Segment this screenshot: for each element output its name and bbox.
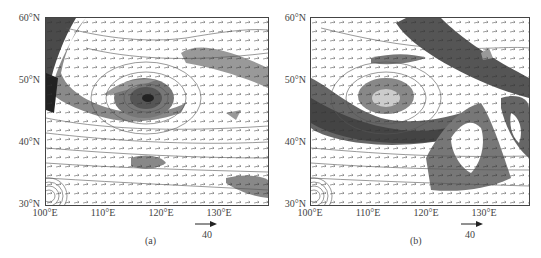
wind-field-map-a [46, 18, 268, 205]
reference-vector-arrow-b [460, 220, 484, 228]
lat-label-50n: 50°N [4, 74, 40, 85]
map-plot-a [45, 17, 269, 206]
wind-field-map-b [311, 18, 529, 205]
lon-label-120e: 120°E [141, 207, 181, 218]
lat-label-40n: 40°N [4, 136, 40, 147]
reference-vector-label-b: 40 [465, 229, 475, 240]
lon-label-130e: 130°E [199, 207, 239, 218]
reference-vector-arrow-a [194, 220, 218, 228]
caption-b: (b) [410, 235, 422, 246]
reference-vector-label-a: 40 [202, 229, 212, 240]
lon-label-100e: 100°E [25, 207, 65, 218]
lat-label-50n: 50°N [270, 74, 306, 85]
lat-label-60n: 60°N [270, 12, 306, 23]
caption-a: (a) [145, 235, 156, 246]
lon-label-120e: 120°E [406, 207, 446, 218]
lon-label-130e: 130°E [464, 207, 504, 218]
lon-label-100e: 100°E [290, 207, 330, 218]
lon-label-110e: 110°E [348, 207, 388, 218]
map-plot-b [310, 17, 530, 206]
lon-label-110e: 110°E [83, 207, 123, 218]
lat-label-40n: 40°N [270, 136, 306, 147]
lat-label-60n: 60°N [4, 12, 40, 23]
